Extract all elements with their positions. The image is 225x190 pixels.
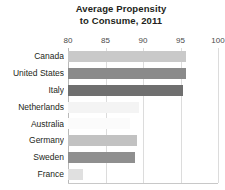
chart-title: Average Propensity to Consume, 2011: [56, 3, 186, 26]
bar-united-states: [68, 68, 186, 79]
x-tick-label-80: 80: [64, 36, 73, 46]
bar-italy: [68, 85, 183, 96]
bar-rows: CanadaUnited StatesItalyNetherlandsAustr…: [0, 48, 225, 183]
category-label-italy: Italy: [0, 82, 64, 99]
bar-netherlands: [68, 102, 139, 113]
category-label-france: France: [0, 166, 64, 183]
chart-title-line-1: Average Propensity: [56, 3, 186, 15]
x-tick-label-85: 85: [101, 36, 110, 46]
bar-row: Australia: [0, 116, 225, 133]
category-label-germany: Germany: [0, 132, 64, 149]
chart-container: Average Propensity to Consume, 2011 8085…: [0, 0, 225, 190]
category-label-australia: Australia: [0, 116, 64, 133]
bar-row: Netherlands: [0, 99, 225, 116]
bar-row: Italy: [0, 82, 225, 99]
bar-germany: [68, 135, 137, 146]
x-tick-label-90: 90: [139, 36, 148, 46]
x-axis-tick-labels: 80859095100: [0, 36, 225, 48]
bar-row: Germany: [0, 132, 225, 149]
bar-row: France: [0, 166, 225, 183]
bar-row: United States: [0, 65, 225, 82]
bar-france: [68, 169, 83, 180]
category-label-canada: Canada: [0, 48, 64, 65]
chart-title-line-2: to Consume, 2011: [56, 15, 186, 27]
bar-row: Canada: [0, 48, 225, 65]
x-tick-label-95: 95: [176, 36, 185, 46]
bar-canada: [68, 51, 186, 62]
bar-row: Sweden: [0, 149, 225, 166]
x-tick-label-100: 100: [211, 36, 224, 46]
bar-australia: [68, 118, 130, 129]
bar-sweden: [68, 152, 135, 163]
category-label-united-states: United States: [0, 65, 64, 82]
category-label-sweden: Sweden: [0, 149, 64, 166]
category-label-netherlands: Netherlands: [0, 99, 64, 116]
axis-baseline: [68, 183, 218, 184]
